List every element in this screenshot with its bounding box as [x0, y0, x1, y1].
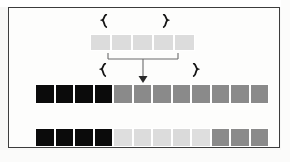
result-array-cell	[74, 128, 94, 147]
target-array-cell	[74, 84, 94, 104]
result-array-cell	[250, 128, 270, 147]
source-array-cell	[174, 34, 195, 51]
result-array-row	[35, 128, 269, 147]
result-array-cell	[230, 128, 250, 147]
page-margin-right	[281, 0, 290, 162]
target-array-cell	[211, 84, 231, 104]
result-array-cell	[55, 128, 75, 147]
target-array-cell	[172, 84, 192, 104]
result-array-cell	[133, 128, 153, 147]
figure-canvas	[0, 0, 290, 162]
source-array-cell	[90, 34, 111, 51]
target-array-cell	[35, 84, 55, 104]
source-array-cell	[153, 34, 174, 51]
target-array-cell	[94, 84, 114, 104]
source-array-row	[90, 34, 195, 51]
page-margin-top	[0, 0, 290, 7]
result-array-cell	[35, 128, 55, 147]
source-array-cell	[111, 34, 132, 51]
source-array-cell	[132, 34, 153, 51]
result-array-cell	[211, 128, 231, 147]
splice-connector	[107, 52, 179, 84]
result-array-cell	[152, 128, 172, 147]
target-array-cell	[230, 84, 250, 104]
target-array-cell	[191, 84, 211, 104]
target-array-row	[35, 84, 269, 104]
target-span-end-marker	[191, 63, 200, 77]
source-span-end-marker	[161, 14, 170, 28]
figure-frame	[8, 7, 280, 148]
result-array-cell	[94, 128, 114, 147]
target-array-cell	[152, 84, 172, 104]
target-array-cell	[113, 84, 133, 104]
target-array-cell	[250, 84, 270, 104]
result-array-cell	[113, 128, 133, 147]
target-array-cell	[55, 84, 75, 104]
target-span-start-marker	[99, 63, 108, 77]
page-margin-bottom	[0, 150, 290, 162]
result-array-cell	[191, 128, 211, 147]
result-array-cell	[172, 128, 192, 147]
source-span-start-marker	[100, 14, 109, 28]
target-array-cell	[133, 84, 153, 104]
